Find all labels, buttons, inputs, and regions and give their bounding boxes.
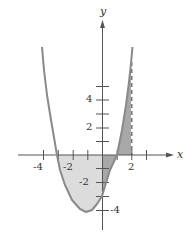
y-axis-label: y [100, 6, 106, 17]
parabola-graph [0, 0, 194, 240]
x-axis-arrow-icon [166, 153, 174, 158]
y-axis-arrow-icon [100, 20, 105, 28]
x-axis-label: x [177, 149, 183, 160]
y-tick-label-neg2: -2 [79, 177, 89, 187]
y-tick-label-4: 4 [86, 94, 92, 104]
x-tick-label-neg4: -4 [33, 162, 43, 172]
x-tick-label-2: 2 [128, 162, 134, 172]
x-tick-label-neg2: -2 [63, 162, 73, 172]
y-tick-label-2: 2 [86, 122, 92, 132]
y-tick-label-neg4: -4 [110, 205, 120, 215]
